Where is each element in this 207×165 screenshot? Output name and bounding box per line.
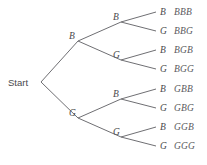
- branch-g-to-gb: [78, 99, 121, 118]
- branch-group-level-1: [41, 41, 78, 118]
- outcome-ggg: GGG: [174, 141, 195, 151]
- outcome-gbg: GBG: [174, 103, 194, 113]
- outcome-bgg: BGG: [174, 64, 194, 74]
- leaf-label-1: B: [160, 7, 166, 17]
- node-label-b: B: [69, 31, 75, 41]
- branch-bb-to-bbg: [121, 22, 156, 31]
- leaf-label-7: B: [160, 122, 166, 132]
- start-node-label: Start: [8, 77, 28, 88]
- branch-group-level-2: [78, 22, 121, 137]
- branch-group-level-3: [121, 12, 156, 146]
- outcome-bgb: BGB: [174, 45, 193, 55]
- leaf-label-8: G: [160, 141, 167, 151]
- branch-gg-to-ggg: [121, 137, 156, 146]
- probability-tree-diagram: Start B G B G B G B G B G B G B G BBB BB…: [0, 0, 207, 165]
- leaf-label-6: G: [160, 103, 167, 113]
- leaf-label-2: G: [160, 26, 167, 36]
- node-label-g: G: [69, 108, 76, 118]
- outcome-bbg: BBG: [174, 26, 193, 36]
- node-label-gg: G: [113, 127, 120, 137]
- branch-gb-to-gbb: [121, 89, 156, 99]
- branch-bg-to-bgb: [121, 50, 156, 60]
- outcome-ggb: GGB: [174, 122, 194, 132]
- outcome-labels: BBB BBG BGB BGG GBB GBG GGB GGG: [174, 7, 195, 151]
- outcome-bbb: BBB: [174, 7, 192, 17]
- outcome-gbb: GBB: [174, 84, 193, 94]
- branch-bg-to-bgg: [121, 60, 156, 69]
- branch-b-to-bb: [78, 22, 121, 41]
- leaf-label-3: B: [160, 45, 166, 55]
- leaf-labels: B G B G B G B G: [160, 7, 167, 151]
- leaf-label-4: G: [160, 64, 167, 74]
- node-labels-level-2: B G B G: [113, 12, 120, 137]
- branch-start-to-b: [41, 41, 78, 82]
- node-label-bg: G: [113, 50, 120, 60]
- node-label-gb: B: [113, 89, 119, 99]
- branch-gg-to-ggb: [121, 127, 156, 137]
- tree-canvas: Start B G B G B G B G B G B G B G BBB BB…: [0, 0, 207, 165]
- branch-gb-to-gbg: [121, 99, 156, 108]
- leaf-label-5: B: [160, 84, 166, 94]
- node-label-bb: B: [113, 12, 119, 22]
- branch-bb-to-bbb: [121, 12, 156, 22]
